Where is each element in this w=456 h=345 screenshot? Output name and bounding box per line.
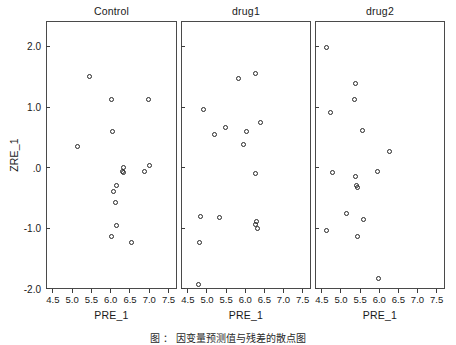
y-tick-2-3: [315, 228, 319, 229]
x-tick-label-1-4: 6.5: [258, 294, 271, 305]
data-point: [223, 125, 228, 130]
x-tick-1-2: [226, 289, 227, 293]
y-tick-0-4: [46, 288, 50, 289]
panel-title-drug1: drug1: [181, 5, 311, 17]
data-point: [120, 169, 125, 174]
x-tick-0-0: [52, 289, 53, 293]
x-tick-label-1-0: 4.5: [181, 294, 194, 305]
y-tick-label-4: -2.0: [8, 284, 41, 295]
data-point: [375, 169, 380, 174]
panel-title-drug2: drug2: [315, 5, 445, 17]
figure-caption: 图 ： 因变量预测值与残差的散点图: [0, 330, 456, 345]
x-tick-label-2-3: 6.0: [373, 294, 386, 305]
data-point: [376, 276, 381, 281]
x-tick-label-0-1: 5.0: [66, 294, 79, 305]
data-point: [241, 142, 246, 147]
x-tick-label-2-5: 7.0: [411, 294, 424, 305]
data-point: [258, 120, 263, 125]
y-tick-0-3: [46, 228, 50, 229]
data-point: [110, 129, 115, 134]
y-tick-label-3: -1.0: [8, 223, 41, 234]
data-point: [236, 76, 241, 81]
y-tick-1-0: [181, 46, 185, 47]
panel-title-control: Control: [46, 5, 177, 17]
data-point: [109, 97, 114, 102]
y-tick-0-2: [46, 167, 50, 168]
x-tick-2-5: [417, 289, 418, 293]
x-axis-title-1: PRE_1: [229, 309, 263, 321]
x-tick-label-2-1: 5.0: [334, 294, 347, 305]
x-tick-label-2-2: 5.5: [354, 294, 367, 305]
data-point: [198, 214, 203, 219]
y-tick-1-1: [181, 107, 185, 108]
x-tick-label-1-5: 7.0: [277, 294, 290, 305]
data-point: [328, 110, 333, 115]
y-tick-1-2: [181, 167, 185, 168]
data-point: [253, 171, 258, 176]
x-tick-label-0-2: 5.5: [85, 294, 98, 305]
x-tick-1-5: [283, 289, 284, 293]
y-axis-title: ZRE_1: [8, 138, 20, 172]
y-tick-label-1: 1.0: [8, 102, 41, 113]
x-tick-2-2: [360, 289, 361, 293]
y-tick-2-1: [315, 107, 319, 108]
data-point: [361, 217, 366, 222]
x-tick-label-1-2: 5.5: [220, 294, 233, 305]
x-tick-0-2: [91, 289, 92, 293]
y-tick-1-3: [181, 228, 185, 229]
data-point: [360, 128, 365, 133]
x-tick-label-1-3: 6.0: [239, 294, 252, 305]
x-tick-label-2-4: 6.5: [392, 294, 405, 305]
x-tick-2-1: [340, 289, 341, 293]
plot-panel-drug2: [315, 21, 445, 289]
data-point: [355, 234, 360, 239]
x-tick-label-1-6: 7.5: [296, 294, 309, 305]
x-tick-1-3: [245, 289, 246, 293]
x-tick-label-0-6: 7.5: [162, 294, 175, 305]
x-tick-1-1: [206, 289, 207, 293]
y-tick-0-1: [46, 107, 50, 108]
x-tick-label-0-0: 4.5: [46, 294, 59, 305]
x-tick-label-2-0: 4.5: [315, 294, 328, 305]
x-tick-label-1-1: 5.0: [200, 294, 213, 305]
data-point: [113, 200, 118, 205]
data-point: [196, 282, 201, 287]
x-tick-2-3: [379, 289, 380, 293]
x-tick-1-6: [302, 289, 303, 293]
x-tick-1-0: [187, 289, 188, 293]
x-axis-title-2: PRE_1: [363, 309, 397, 321]
x-tick-2-0: [321, 289, 322, 293]
x-tick-0-5: [149, 289, 150, 293]
x-tick-label-0-3: 6.0: [104, 294, 117, 305]
plot-panel-control: [46, 21, 177, 289]
data-point: [324, 45, 329, 50]
x-tick-1-4: [264, 289, 265, 293]
plot-panel-drug1: [181, 21, 311, 289]
x-tick-label-0-4: 6.5: [123, 294, 136, 305]
x-tick-2-4: [398, 289, 399, 293]
x-tick-0-6: [168, 289, 169, 293]
x-axis-title-0: PRE_1: [94, 309, 128, 321]
data-point: [353, 174, 358, 179]
x-tick-0-1: [72, 289, 73, 293]
data-point: [146, 97, 151, 102]
x-tick-0-3: [110, 289, 111, 293]
data-point: [353, 81, 358, 86]
y-tick-label-0: 2.0: [8, 41, 41, 52]
y-tick-2-2: [315, 167, 319, 168]
y-tick-0-0: [46, 46, 50, 47]
x-tick-label-2-6: 7.5: [430, 294, 443, 305]
y-tick-2-4: [315, 288, 319, 289]
x-tick-0-4: [129, 289, 130, 293]
x-tick-label-0-5: 7.0: [143, 294, 156, 305]
y-tick-2-0: [315, 46, 319, 47]
y-tick-1-4: [181, 288, 185, 289]
data-point: [244, 129, 249, 134]
x-tick-2-6: [436, 289, 437, 293]
